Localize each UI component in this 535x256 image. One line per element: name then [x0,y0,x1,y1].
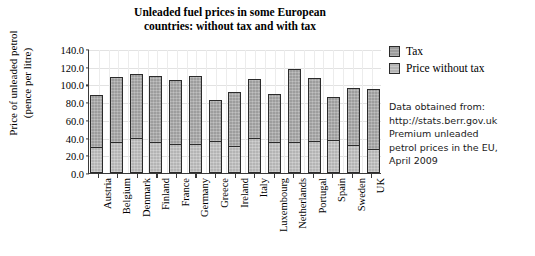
bar-column [288,50,301,173]
bar-segment-tax [368,90,379,150]
bar-stack [189,76,202,173]
bar-column [248,50,261,173]
bar-segment-tax [190,77,201,145]
bar-column [327,50,340,173]
y-axis-tick-label: 0.0 [71,169,84,180]
bar-stack [110,77,123,173]
bar-column [308,50,321,173]
bar-column [228,50,241,173]
bar-column [130,50,143,173]
bar-column [110,50,123,173]
bar-segment-tax [289,70,300,142]
bar-segment-tax [210,101,221,142]
bar-segment-tax [170,81,181,145]
bar-series-group [89,50,381,173]
bar-stack [327,97,340,173]
x-axis-tick-label: Sweden [356,178,367,211]
bar-stack [149,76,162,173]
bar-segment-price-without-tax [368,150,379,172]
x-axis-tick-label: Ireland [239,178,250,208]
bar-stack [209,100,222,173]
bar-segment-tax [131,75,142,139]
x-axis-tick-label: Netherlands [297,178,308,229]
x-axis-labels: AustriaBelgiumDenmarkFinlandFranceGerman… [88,178,381,250]
y-axis-tick-label: 140.0 [60,45,84,56]
bar-stack [367,89,380,173]
y-axis-tick-label: 20.0 [66,151,84,162]
legend: TaxPrice without tax [389,45,535,79]
bar-column [189,50,202,173]
y-axis-tick-label: 80.0 [66,98,84,109]
bar-stack [228,92,241,173]
page-title: Unleaded fuel prices in some European co… [80,6,380,33]
bar-segment-price-without-tax [190,145,201,172]
x-axis-tick-label: Spain [336,178,347,202]
bar-segment-tax [348,89,359,146]
bar-column [367,50,380,173]
bar-stack [130,74,143,173]
x-axis-tick-label: Finland [160,178,171,210]
x-axis-tick-label: Luxembourg [278,178,289,232]
bar-segment-tax [91,96,102,148]
x-axis-tick-label: Portugal [317,178,328,214]
bar-column [149,50,162,173]
x-axis-tick-label: Austria [102,178,113,209]
bar-segment-price-without-tax [289,143,300,172]
bar-segment-price-without-tax [170,145,181,172]
legend-item-label: Tax [406,45,423,57]
bar-segment-price-without-tax [269,143,280,172]
bar-segment-price-without-tax [111,143,122,172]
bar-segment-tax [249,80,260,139]
bar-segment-price-without-tax [249,139,260,172]
plot-area: 140.0120.0100.080.060.040.020.00.0 [88,50,381,174]
bar-segment-price-without-tax [309,142,320,172]
bar-segment-tax [229,93,240,147]
bar-stack [90,95,103,173]
bar-column [90,50,103,173]
y-axis-tick-label: 40.0 [66,133,84,144]
bar-segment-price-without-tax [91,148,102,172]
x-axis-tick-label: Germany [199,178,210,217]
bar-stack [248,79,261,173]
bar-segment-price-without-tax [348,146,359,172]
bar-segment-price-without-tax [150,143,161,172]
bar-segment-price-without-tax [210,142,221,172]
legend-swatch-icon [389,63,400,74]
legend-swatch-icon [389,46,400,57]
bar-segment-price-without-tax [328,141,339,172]
y-axis-title: Price of unleaded petrol (pence per litr… [6,13,40,153]
bar-segment-tax [309,79,320,141]
x-axis-tick-label: France [180,178,191,207]
legend-item: Price without tax [389,62,535,74]
bar-column [268,50,281,173]
chart-screenshot: Unleaded fuel prices in some European co… [0,0,535,256]
bar-segment-tax [111,78,122,143]
bar-segment-price-without-tax [131,139,142,172]
bar-column [209,50,222,173]
x-axis-tick-label: Belgium [121,178,132,214]
bar-stack [288,69,301,173]
source-note: Data obtained from: http://stats.berr.go… [389,100,535,168]
legend-item-label: Price without tax [406,62,485,74]
x-axis-tick-label: Denmark [141,178,152,217]
y-axis-tick-label: 60.0 [66,115,84,126]
y-axis-tick-label: 100.0 [60,80,84,91]
x-axis-tick-label: Greece [219,178,230,208]
bar-segment-price-without-tax [229,147,240,172]
bar-stack [169,80,182,173]
bar-stack [347,88,360,173]
y-axis-tick-label: 120.0 [60,62,84,73]
bar-stack [308,78,321,173]
legend-item: Tax [389,45,535,57]
bar-stack [268,94,281,173]
bar-column [347,50,360,173]
bar-segment-tax [269,95,280,143]
bar-segment-tax [328,98,339,141]
bar-segment-tax [150,77,161,143]
plot-wrapper: 140.0120.0100.080.060.040.020.00.0 [88,50,381,174]
x-axis-tick-label: UK [375,178,386,193]
bar-column [169,50,182,173]
x-axis-tick-label: Italy [258,178,269,197]
